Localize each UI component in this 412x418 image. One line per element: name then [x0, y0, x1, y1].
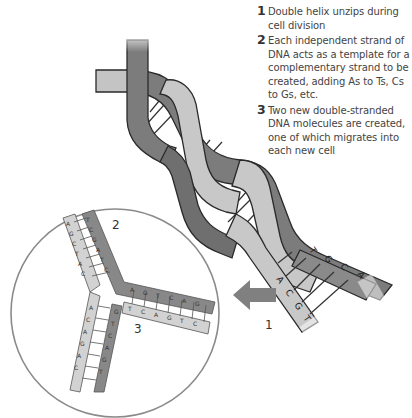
svg-text:G: G: [92, 236, 97, 243]
svg-text:C: C: [169, 294, 173, 301]
step-text: Two new double-stranded DNA molecules ar…: [268, 105, 405, 157]
step-text: Each independent strand of DNA acts as a…: [268, 35, 410, 100]
label-unzip-point: 1: [265, 318, 273, 332]
svg-text:T: T: [85, 216, 90, 223]
svg-text:T: T: [179, 317, 184, 324]
svg-text:G: G: [80, 340, 85, 347]
svg-text:G: G: [167, 314, 172, 321]
svg-text:G: G: [143, 289, 148, 296]
svg-text:C: C: [104, 266, 108, 273]
svg-text:C: C: [89, 226, 93, 233]
step-number: 1: [257, 4, 266, 18]
label-new-strand-upper: 2: [112, 218, 120, 232]
svg-text:C: C: [141, 308, 145, 315]
svg-text:G: G: [69, 230, 74, 237]
svg-text:C: C: [193, 320, 197, 327]
step-list: 1 Double helix unzips during cell divisi…: [257, 5, 412, 160]
svg-text:T: T: [99, 256, 104, 263]
svg-text:C: C: [86, 316, 90, 323]
step-2: 2 Each independent strand of DNA acts as…: [257, 34, 412, 102]
svg-text:T: T: [127, 305, 132, 312]
step-text: Double helix unzips during cell division: [268, 6, 399, 31]
svg-text:T: T: [98, 368, 103, 375]
step-3: 3 Two new double-stranded DNA molecules …: [257, 104, 412, 158]
svg-text:G: G: [102, 356, 107, 363]
svg-text:T: T: [155, 292, 160, 299]
svg-text:C: C: [72, 240, 76, 247]
label-new-strand-lower: 3: [134, 322, 142, 336]
svg-text:T: T: [74, 250, 79, 257]
svg-text:C: C: [74, 364, 78, 371]
svg-text:T: T: [110, 320, 115, 327]
step-number: 3: [257, 103, 266, 117]
svg-text:C: C: [81, 270, 85, 277]
svg-text:G: G: [114, 308, 119, 315]
step-number: 2: [257, 33, 266, 47]
replication-fork-closeup: AGC TAC TCG ATC AGT CAG TCA GTC ACA GAC …: [11, 209, 219, 417]
svg-text:C: C: [108, 332, 112, 339]
svg-text:G: G: [195, 300, 200, 307]
step-1: 1 Double helix unzips during cell divisi…: [257, 5, 412, 32]
